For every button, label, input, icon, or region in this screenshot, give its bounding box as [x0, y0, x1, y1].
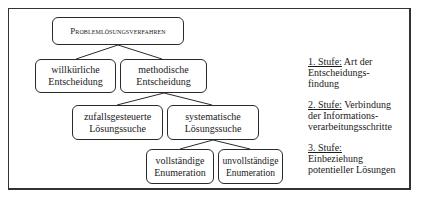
- node-label-line1: unvollständige: [223, 156, 279, 166]
- node-willkuerliche-entscheidung: willkürliche Entscheidung: [35, 59, 116, 93]
- node-label: zufallsgesteuerte Lösungssuche: [84, 111, 151, 135]
- node-label-line1: vollständige: [156, 155, 205, 166]
- node-vollstaendige-enumeration: vollständige Enumeration: [146, 149, 214, 184]
- node-label: unvollständige Enumeration: [223, 155, 279, 179]
- node-label: Problemlösungsverfahren: [70, 25, 166, 37]
- node-label-line2: Lösungssuche: [185, 123, 242, 134]
- legend-step-text: findung: [308, 78, 339, 89]
- node-label: vollständige Enumeration: [154, 155, 206, 179]
- node-label-line2: Entscheidung: [48, 76, 102, 87]
- node-label: willkürliche Entscheidung: [48, 64, 102, 88]
- node-zufallsgesteuerte-loesungssuche: zufallsgesteuerte Lösungssuche: [72, 105, 163, 140]
- edge-systematisch-to-vollstaendig: [180, 140, 213, 149]
- legend-step-text: Verbindung: [344, 99, 391, 110]
- legend-step-title: 1. Stufe:: [308, 56, 342, 67]
- legend-step-text: Art der: [344, 56, 373, 67]
- legend-step-2: 2. Stufe: Verbindung der Informations- v…: [308, 99, 408, 132]
- edge-methodisch-to-zufall: [117, 93, 164, 105]
- node-label-line2: Lösungssuche: [89, 123, 146, 134]
- node-problemloesungsverfahren: Problemlösungsverfahren: [52, 17, 184, 45]
- node-unvollstaendige-enumeration: unvollständige Enumeration: [218, 149, 283, 184]
- node-label-line1: willkürliche: [51, 64, 99, 75]
- edge-root-to-methodisch: [118, 45, 162, 59]
- legend-step-3: 3. Stufe: Einbeziehung potentieller Lösu…: [308, 142, 408, 175]
- node-label: methodische Entscheidung: [136, 64, 190, 88]
- node-label: systematische Lösungssuche: [185, 111, 242, 135]
- stages-legend: 1. Stufe: Art der Entscheidungs- findung…: [308, 56, 408, 185]
- legend-step-1: 1. Stufe: Art der Entscheidungs- findung: [308, 56, 408, 89]
- node-label-line2: Enumeration: [226, 168, 275, 178]
- node-label-line1: methodische: [138, 64, 189, 75]
- edge-methodisch-to-systematisch: [164, 93, 212, 105]
- edge-root-to-willkuerlich: [76, 45, 118, 59]
- legend-step-text: Einbeziehung: [308, 153, 363, 164]
- legend-step-text: Entscheidungs-: [308, 67, 370, 78]
- node-methodische-entscheidung: methodische Entscheidung: [120, 59, 207, 93]
- legend-step-title: 2. Stufe:: [308, 99, 342, 110]
- node-label-line1: systematische: [185, 111, 241, 122]
- node-label-line2: Entscheidung: [136, 76, 190, 87]
- legend-step-text: der Informations-: [308, 110, 378, 121]
- node-systematische-loesungssuche: systematische Lösungssuche: [167, 105, 259, 140]
- node-label-line2: Enumeration: [154, 167, 206, 178]
- edge-systematisch-to-unvollstaendig: [213, 140, 250, 149]
- legend-step-text: potentieller Lösungen: [308, 164, 395, 175]
- legend-step-title: 3. Stufe:: [308, 142, 342, 153]
- legend-step-text: verarbeitungsschritte: [308, 121, 392, 132]
- node-label-line1: zufallsgesteuerte: [84, 111, 151, 122]
